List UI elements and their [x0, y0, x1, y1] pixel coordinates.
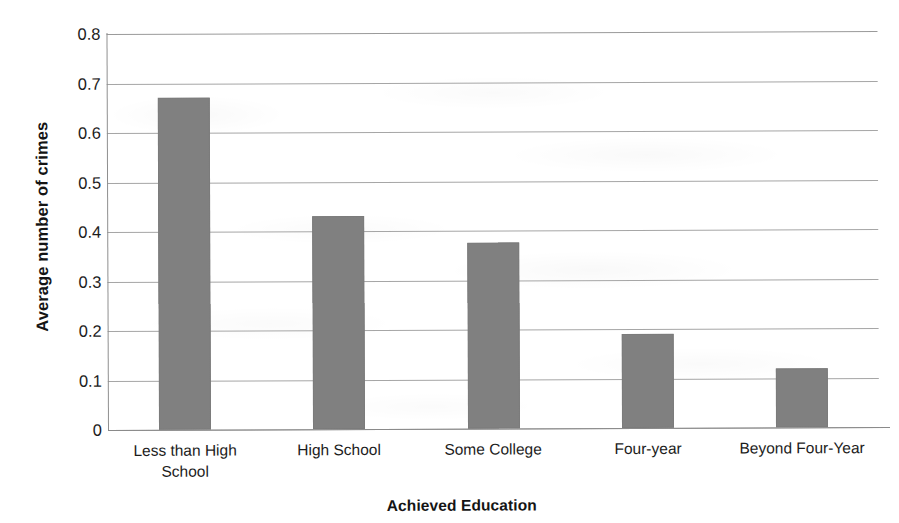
x-axis-category-label: Some College	[416, 439, 570, 461]
x-axis-category-label: High School	[262, 440, 416, 462]
bar-chart-figure: Average number of crimes 0.80.70.60.50.4…	[0, 0, 899, 523]
y-axis-tick-label: 0.4	[59, 224, 101, 241]
bars-group	[106, 31, 879, 430]
bar	[312, 216, 365, 429]
bar	[467, 243, 520, 429]
y-axis-tick-labels: 0.80.70.60.50.40.30.20.10	[58, 24, 102, 436]
y-axis-tick-label: 0.8	[58, 26, 100, 43]
y-axis-tick-label: 0.7	[59, 75, 101, 92]
y-axis-tick-label: 0.3	[59, 273, 101, 290]
y-axis-title: Average number of crimes	[32, 97, 52, 357]
x-axis-category-label: Beyond Four-Year	[725, 438, 879, 460]
y-axis-tick-label: 0.6	[59, 125, 101, 142]
x-axis-category-label-line: Four-year	[571, 439, 725, 461]
x-axis-category-label-line: High School	[262, 440, 416, 462]
x-axis-category-label-line: Beyond Four-Year	[725, 438, 879, 460]
bar	[158, 98, 211, 430]
x-axis-title: Achieved Education	[0, 495, 899, 516]
y-axis-tick-label: 0.5	[59, 174, 101, 191]
x-axis-category-labels: Less than HighSchoolHigh SchoolSome Coll…	[108, 438, 879, 493]
chart-skew-wrapper: Average number of crimes 0.80.70.60.50.4…	[0, 0, 899, 523]
bar	[776, 368, 828, 428]
x-axis-category-label-line: School	[108, 461, 262, 483]
x-axis-category-label-line: Less than High	[108, 440, 262, 462]
x-axis-category-label: Less than HighSchool	[108, 440, 262, 482]
y-axis-tick-label: 0.1	[60, 372, 102, 389]
y-axis-tick-label: 0.2	[60, 323, 102, 340]
x-axis-category-label-line: Some College	[416, 439, 570, 461]
bar	[622, 334, 674, 428]
plot-area	[106, 31, 879, 430]
x-axis-category-label: Four-year	[571, 439, 725, 461]
y-axis-tick-label: 0	[60, 422, 102, 439]
